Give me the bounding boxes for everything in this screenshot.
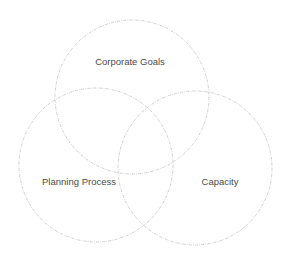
label-capacity: Capacity — [202, 177, 239, 187]
venn-circles — [0, 0, 291, 259]
label-planning-process: Planning Process — [42, 177, 116, 187]
label-corporate-goals: Corporate Goals — [95, 57, 165, 67]
circle-capacity — [118, 91, 272, 245]
circle-planning-process — [19, 88, 173, 242]
